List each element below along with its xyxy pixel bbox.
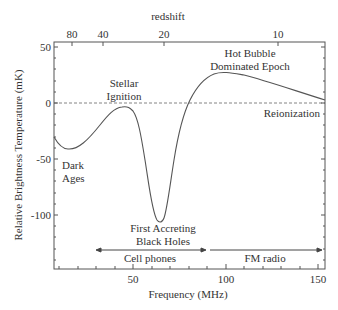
y-tick-minus-100: -100 bbox=[31, 209, 52, 221]
x-tick-50: 50 bbox=[128, 273, 140, 285]
redshift-ticks bbox=[72, 42, 278, 46]
annotation-hot-bubble: Hot Bubble bbox=[224, 47, 275, 59]
x-tick-100: 100 bbox=[218, 273, 235, 285]
annotation-stellar: Stellar bbox=[110, 77, 139, 89]
y-tick-minus-50: -50 bbox=[36, 153, 51, 165]
x-axis-title: Frequency (MHz) bbox=[148, 288, 227, 301]
redshift-tick-20: 20 bbox=[159, 28, 171, 40]
x-tick-150: 150 bbox=[310, 273, 327, 285]
chart: redshift 80 40 20 10 50 0 -50 -100 50 10… bbox=[0, 0, 338, 310]
redshift-axis-title: redshift bbox=[151, 10, 185, 22]
annotation-dominated-epoch: Dominated Epoch bbox=[210, 60, 290, 72]
redshift-tick-40: 40 bbox=[98, 28, 110, 40]
redshift-tick-80: 80 bbox=[67, 28, 79, 40]
redshift-tick-10: 10 bbox=[273, 28, 285, 40]
annotation-black-holes: Black Holes bbox=[136, 235, 190, 247]
band-label-fm-radio: FM radio bbox=[244, 252, 286, 264]
x-ticks bbox=[59, 264, 318, 269]
annotation-reionization: Reionization bbox=[264, 107, 321, 119]
signal-curve bbox=[54, 72, 325, 222]
annotation-ignition: Ignition bbox=[107, 90, 142, 102]
band-label-cell-phones: Cell phones bbox=[124, 252, 176, 264]
annotation-ages: Ages bbox=[62, 172, 85, 184]
annotation-dark: Dark bbox=[62, 159, 84, 171]
y-axis-title: Relative Brightness Temperature (mK) bbox=[12, 69, 25, 240]
y-tick-0: 0 bbox=[46, 97, 52, 109]
annotation-first-accreting: First Accreting bbox=[130, 222, 196, 234]
y-tick-50: 50 bbox=[40, 41, 52, 53]
